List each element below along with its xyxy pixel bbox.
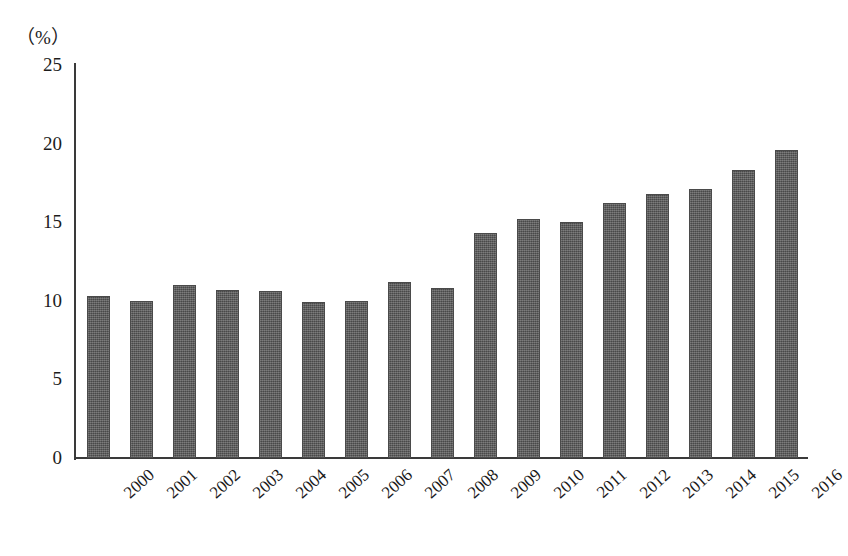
x-tick-label: 2011 xyxy=(594,466,630,501)
bar xyxy=(775,150,798,458)
y-tick-label: 0 xyxy=(16,448,62,467)
x-tick-label: 2014 xyxy=(723,466,760,501)
x-tick-label: 2009 xyxy=(508,466,545,501)
bar xyxy=(517,219,540,458)
bar xyxy=(345,301,368,458)
x-tick-label: 2006 xyxy=(379,466,416,501)
y-tick-label: 10 xyxy=(16,291,62,310)
x-tick-label: 2004 xyxy=(293,466,330,501)
x-tick-label: 2002 xyxy=(207,466,244,501)
x-tick-label: 2005 xyxy=(336,466,373,501)
bar xyxy=(87,296,110,458)
bar-chart: （%） 0510152025 2000200120022003200420052… xyxy=(0,0,848,556)
bar xyxy=(646,194,669,458)
bar xyxy=(302,302,325,458)
x-tick-label: 2013 xyxy=(680,466,717,501)
bar xyxy=(216,290,239,458)
bar xyxy=(732,170,755,458)
x-tick-label: 2007 xyxy=(422,466,459,501)
bar xyxy=(474,233,497,458)
bar xyxy=(130,301,153,458)
bar xyxy=(431,288,454,458)
bar xyxy=(560,222,583,458)
bar xyxy=(173,285,196,458)
x-tick-label: 2015 xyxy=(766,466,803,501)
x-tick-label: 2008 xyxy=(465,466,502,501)
x-tick-label: 2000 xyxy=(121,466,158,501)
x-tick-label: 2012 xyxy=(637,466,674,501)
plot-area xyxy=(74,65,808,458)
bar xyxy=(603,203,626,458)
bar xyxy=(388,282,411,458)
x-tick-label: 2003 xyxy=(250,466,287,501)
bar xyxy=(259,291,282,458)
y-tick-label: 20 xyxy=(16,134,62,153)
x-tick-label: 2001 xyxy=(164,466,201,501)
bar xyxy=(689,189,712,458)
y-tick-label: 5 xyxy=(16,369,62,388)
x-axis-tick-labels: 2000200120022003200420052006200720082009… xyxy=(74,460,808,550)
y-axis-unit-label: （%） xyxy=(16,22,70,49)
x-tick-label: 2016 xyxy=(809,466,846,501)
x-tick-label: 2010 xyxy=(551,466,588,501)
y-tick-label: 15 xyxy=(16,212,62,231)
y-tick-label: 25 xyxy=(16,55,62,74)
